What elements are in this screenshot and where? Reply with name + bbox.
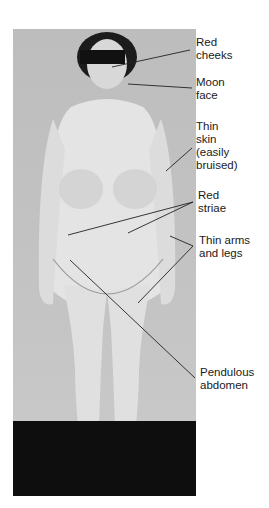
label-line: (easily [196, 146, 238, 159]
label-line: bruised) [196, 159, 238, 172]
label-line: Thin arms [199, 234, 250, 247]
label-red-cheeks: Red cheeks [196, 36, 232, 62]
label-line: Moon [196, 76, 225, 89]
label-thin-arms-legs: Thin arms and legs [199, 234, 250, 260]
label-line: Red [196, 36, 232, 49]
label-thin-skin: Thin skin (easily bruised) [196, 120, 238, 172]
label-line: cheeks [196, 49, 232, 62]
label-line: Red [198, 189, 226, 202]
label-line: abdomen [200, 379, 254, 392]
label-moon-face: Moon face [196, 76, 225, 102]
label-pendulous-abdomen: Pendulous abdomen [200, 366, 254, 392]
label-line: skin [196, 133, 238, 146]
label-line: Pendulous [200, 366, 254, 379]
label-line: face [196, 89, 225, 102]
label-line: and legs [199, 247, 250, 260]
label-red-striae: Red striae [198, 189, 226, 215]
label-line: striae [198, 202, 226, 215]
label-line: Thin [196, 120, 238, 133]
